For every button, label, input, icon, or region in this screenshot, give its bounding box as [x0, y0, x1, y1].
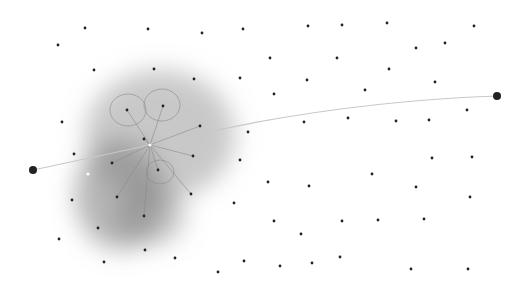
data-point: [190, 193, 193, 196]
cloud-blob: [115, 185, 185, 245]
data-point: [466, 109, 469, 112]
data-point: [97, 227, 100, 230]
start-point[interactable]: [29, 166, 37, 174]
data-point: [339, 256, 342, 259]
data-point: [162, 105, 165, 108]
data-point: [126, 109, 129, 112]
data-point: [199, 125, 202, 128]
data-point: [111, 162, 114, 165]
data-point: [193, 78, 196, 81]
diagram-canvas: [0, 0, 531, 294]
data-point: [308, 185, 311, 188]
data-point: [434, 81, 437, 84]
data-point: [143, 138, 146, 141]
data-point: [73, 153, 76, 156]
data-point: [303, 121, 306, 124]
data-point: [157, 169, 160, 172]
data-point: [61, 121, 64, 124]
data-point: [233, 202, 236, 205]
data-point: [269, 57, 272, 60]
data-point: [247, 131, 250, 134]
data-point: [347, 117, 350, 120]
data-point: [273, 93, 276, 96]
end-point[interactable]: [493, 92, 501, 100]
data-point: [243, 260, 246, 263]
data-point: [239, 159, 242, 162]
data-point: [57, 44, 60, 47]
data-point: [431, 157, 434, 160]
data-point: [93, 69, 96, 72]
data-point: [147, 28, 150, 31]
data-point: [467, 268, 470, 271]
data-point: [377, 219, 380, 222]
data-point: [469, 196, 472, 199]
data-point: [306, 79, 309, 82]
data-point: [217, 271, 220, 274]
data-point: [423, 218, 426, 221]
data-point: [267, 181, 270, 184]
data-point: [444, 42, 447, 45]
data-point: [153, 68, 156, 71]
data-point: [174, 257, 177, 260]
data-point: [410, 268, 413, 271]
data-point: [192, 155, 195, 158]
data-point: [71, 199, 74, 202]
data-point: [395, 120, 398, 123]
data-point: [307, 25, 310, 28]
white-marker: [86, 172, 89, 175]
data-point: [201, 32, 204, 35]
data-point: [388, 68, 391, 71]
data-point: [364, 89, 367, 92]
data-point: [386, 22, 389, 25]
data-point: [473, 25, 476, 28]
data-point: [371, 173, 374, 176]
data-point: [341, 220, 344, 223]
data-point: [143, 215, 146, 218]
data-point: [300, 233, 303, 236]
data-point: [279, 265, 282, 268]
white-marker: [148, 143, 151, 146]
data-point: [239, 77, 242, 80]
data-point: [415, 186, 418, 189]
data-point: [103, 261, 106, 264]
data-point: [242, 28, 245, 31]
data-point: [311, 262, 314, 265]
data-point: [144, 249, 147, 252]
data-point: [273, 220, 276, 223]
data-point: [84, 27, 87, 30]
data-point: [415, 47, 418, 50]
data-point: [471, 156, 474, 159]
data-point: [428, 119, 431, 122]
data-point: [336, 57, 339, 60]
data-point: [116, 196, 119, 199]
data-point: [58, 238, 61, 241]
data-point: [341, 24, 344, 27]
